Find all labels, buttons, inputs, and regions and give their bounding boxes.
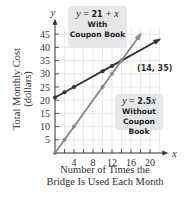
y-tick-label: 25 (40, 82, 50, 93)
data-point (63, 90, 67, 94)
y-axis-name: y (50, 7, 56, 18)
y-tick-label: 10 (40, 121, 50, 132)
y-tick-label: 20 (40, 95, 50, 106)
data-point (120, 59, 124, 63)
callout-with-coupon: y = 21 + x With Coupon Book (68, 6, 127, 48)
data-point (101, 69, 105, 73)
y-tick-label: 15 (40, 108, 50, 119)
y-axis-label-line1: Total Monthly Cost (11, 29, 22, 149)
y-axis-arrow-icon (53, 19, 58, 25)
x-axis-name: x (171, 148, 177, 159)
callout-without-line3: Coupon Book (115, 117, 163, 137)
intersection-label: (14, 35) (137, 64, 172, 73)
y-tick-label: 40 (40, 42, 50, 53)
x-axis-arrow-icon (162, 151, 168, 156)
y-axis-label: Total Monthly Cost (dollars) (11, 29, 33, 149)
x-axis-label-line1: Number of Times the (40, 164, 170, 176)
arrow-icon (153, 39, 161, 45)
callout-without-line2: Without (115, 107, 163, 117)
data-point (63, 138, 67, 142)
data-point (72, 125, 76, 129)
y-tick-label: 35 (40, 55, 50, 66)
callout-with-line3: Coupon Book (68, 30, 127, 40)
data-point (110, 64, 114, 68)
y-axis-label-line2: (dollars) (22, 29, 33, 149)
data-point (101, 85, 105, 89)
y-tick-label: 45 (40, 29, 50, 40)
callout-without-coupon: y = 2.5x Without Coupon Book (115, 94, 163, 130)
y-tick-label: 30 (40, 68, 50, 79)
data-point (53, 151, 57, 155)
equation-with-coupon: y = 21 + x (68, 9, 127, 20)
equation-without-coupon: y = 2.5x (115, 96, 163, 107)
data-point (72, 85, 76, 89)
data-point (110, 72, 114, 76)
x-axis-label-line2: Bridge Is Used Each Month (40, 176, 170, 188)
x-axis-label: Number of Times the Bridge Is Used Each … (40, 164, 170, 188)
data-point (53, 96, 57, 100)
callout-with-line2: With (68, 20, 127, 30)
y-tick-label: 5 (45, 134, 50, 145)
